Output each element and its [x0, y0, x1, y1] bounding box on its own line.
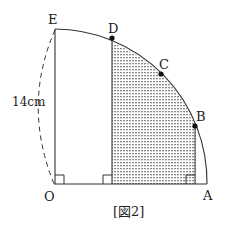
quarter-circle-diagram: E D C B A O 14cm [図2]: [0, 0, 226, 233]
point-D: [109, 35, 114, 40]
point-C: [158, 71, 163, 76]
figure-caption: [図2]: [113, 204, 144, 219]
point-B: [192, 123, 197, 128]
label-E: E: [48, 12, 58, 27]
right-angle-mark-O: [55, 175, 64, 184]
label-C: C: [159, 57, 169, 72]
label-D: D: [108, 21, 118, 36]
label-B: B: [196, 109, 206, 124]
label-A: A: [202, 188, 213, 203]
shaded-region: [112, 20, 196, 184]
length-label: 14cm: [12, 95, 46, 109]
label-O: O: [44, 189, 55, 204]
